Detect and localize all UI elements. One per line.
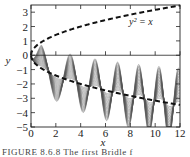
x-tick-label: 4 [78, 127, 84, 139]
y-axis-label: y [5, 54, 11, 66]
x-tick-label: 0 [28, 127, 34, 139]
figure-caption: FIGURE 8.6.8 The first Bridle f [2, 147, 190, 157]
upper-dashed-curve [31, 6, 180, 56]
x-tick-label: 10 [150, 127, 162, 139]
y-tick-label: −5 [16, 121, 28, 133]
chart: 024681012 3210−1−2−3−4−5 x y y² = x [0, 0, 190, 157]
y-tick-label: 2 [23, 21, 29, 33]
curve-family [31, 45, 180, 127]
x-ticks: 024681012 [28, 5, 185, 139]
y-tick-label: 0 [23, 49, 29, 61]
y-tick-label: −1 [16, 64, 28, 76]
curve-annotation: y² = x [128, 16, 153, 27]
y-tick-label: −4 [16, 107, 28, 119]
x-tick-label: 12 [175, 127, 186, 139]
x-tick-label: 2 [53, 127, 59, 139]
y-tick-label: 3 [23, 6, 29, 18]
y-tick-label: −2 [16, 78, 28, 90]
y-tick-label: −3 [16, 92, 28, 104]
x-tick-label: 8 [128, 127, 134, 139]
y-tick-label: 1 [23, 35, 29, 47]
